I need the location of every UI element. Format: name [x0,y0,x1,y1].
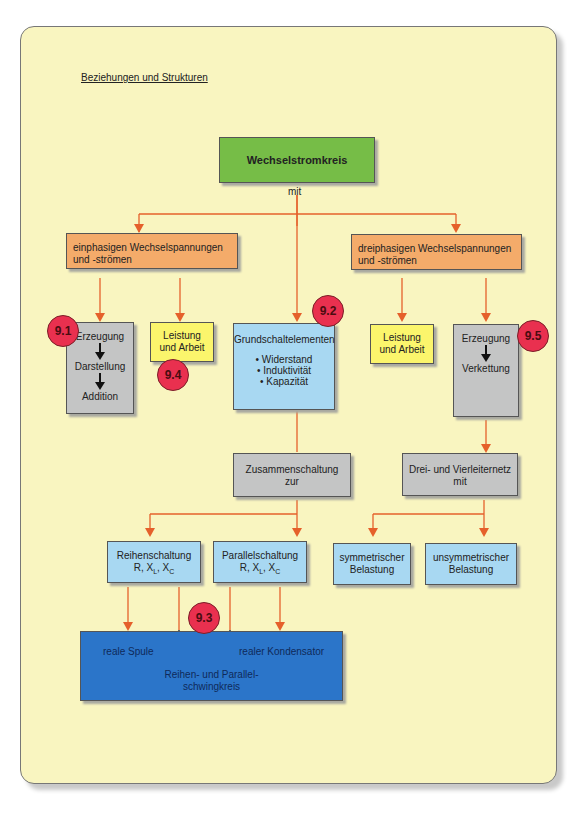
power-line1: Leistung [151,330,213,342]
node-parallel-circuit[interactable]: Parallelschaltung R, XL, XC [213,541,307,583]
item-widerstand: • Widerstand [234,354,334,365]
step-darstellung: Darstellung [67,361,133,373]
result-center-label: Reihen- und Parallel- schwingkreis [81,669,342,693]
asymmetric-line1: unsymmetrischer [426,552,516,564]
badge-9-4[interactable]: 9.4 [157,359,189,391]
item-induktivitaet: • Induktivität [234,365,334,376]
root-node[interactable]: Wechselstromkreis [219,137,375,183]
arrow-down-icon [454,345,518,363]
badge-9-3[interactable]: 9.3 [188,602,220,634]
power-line1: Leistung [371,332,433,344]
node-combination[interactable]: Zusammenschaltung zur [233,453,351,497]
series-formula: R, XL, XC [108,562,200,578]
asymmetric-line2: Belastung [426,564,516,576]
node-three-process[interactable]: Erzeugung Verkettung [453,324,519,417]
root-connector-label: mit [288,186,301,197]
branch-single-label: einphasigen Wechselspannungen und -ström… [73,242,223,265]
parallel-formula: R, XL, XC [214,562,306,578]
combination-line1: Zusammenschaltung [234,464,350,476]
power-line2: und Arbeit [371,344,433,356]
arrow-down-icon [67,343,133,361]
badge-9-1[interactable]: 9.1 [47,315,79,347]
branch-three-phase[interactable]: dreiphasigen Wechselspannungen und -strö… [351,234,522,270]
node-asymmetric-load[interactable]: unsymmetrischer Belastung [425,543,517,585]
result-right-label: realer Kondensator [239,646,324,658]
node-symmetric-load[interactable]: symmetrischer Belastung [333,543,411,585]
parallel-label: Parallelschaltung [214,550,306,562]
node-three-power[interactable]: Leistung und Arbeit [370,324,434,364]
branch-single-phase[interactable]: einphasigen Wechselspannungen und -ström… [66,233,238,269]
node-network[interactable]: Drei- und Vierleiternetz mit [402,453,518,496]
root-label: Wechselstromkreis [247,154,348,166]
branch-three-label: dreiphasigen Wechselspannungen und -strö… [358,243,511,266]
symmetric-line1: symmetrischer [334,552,410,564]
symmetric-line2: Belastung [334,564,410,576]
node-resonant-circuit[interactable]: reale Spule realer Kondensator Reihen- u… [80,631,343,701]
result-left-label: reale Spule [103,646,154,658]
node-series-circuit[interactable]: Reihenschaltung R, XL, XC [107,541,201,583]
arrow-down-icon [67,373,133,391]
node-basic-elements[interactable]: Grundschaltelementen • Widerstand • Indu… [233,323,335,410]
node-single-power[interactable]: Leistung und Arbeit [150,322,214,362]
step-verkettung: Verkettung [454,363,518,375]
basic-title: Grundschaltelementen [234,334,334,346]
network-line2: mit [403,476,517,488]
power-line2: und Arbeit [151,342,213,354]
badge-9-2[interactable]: 9.2 [312,295,344,327]
item-kapazitaet: • Kapazität [234,376,334,387]
series-label: Reihenschaltung [108,550,200,562]
step-addition: Addition [67,391,133,403]
network-line1: Drei- und Vierleiternetz [403,464,517,476]
step-erzeugung: Erzeugung [454,333,518,345]
badge-9-5[interactable]: 9.5 [517,320,549,352]
combination-line2: zur [234,476,350,488]
